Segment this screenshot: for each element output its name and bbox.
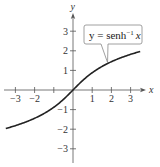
x-tick-label: 2 xyxy=(109,93,114,104)
x-tick-label: 3 xyxy=(128,93,133,104)
asinh-chart: xy−3−2123−3−2−1123 y = senh−1x xyxy=(0,0,160,167)
y-tick-label: −1 xyxy=(57,104,68,115)
y-tick-label: −2 xyxy=(57,124,68,135)
y-tick-label: 3 xyxy=(63,26,68,37)
y-tick-label: 1 xyxy=(63,65,68,76)
function-label: y = senh−1x xyxy=(84,25,142,63)
y-tick-label: −3 xyxy=(57,143,68,154)
x-tick-label: −2 xyxy=(29,93,40,104)
x-tick-label: 1 xyxy=(90,93,95,104)
y-tick-label: 2 xyxy=(63,45,68,56)
x-axis-label: x xyxy=(148,84,154,95)
x-tick-label: −3 xyxy=(10,93,21,104)
y-axis-label: y xyxy=(70,1,76,12)
